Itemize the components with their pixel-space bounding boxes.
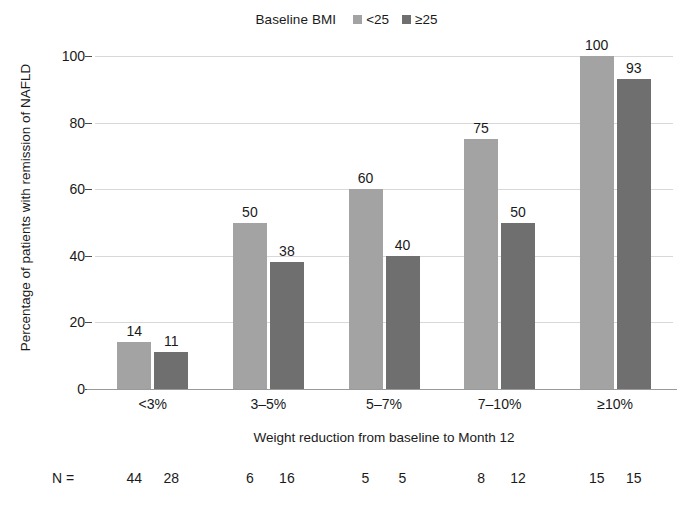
y-axis-tick-label: 40: [45, 248, 85, 264]
x-axis-title: Weight reduction from baseline to Month …: [95, 430, 673, 445]
bar-value-label: 60: [358, 170, 374, 186]
x-axis-tick-label: 3–5%: [250, 396, 286, 412]
bar: [154, 352, 188, 389]
legend-title: Baseline BMI: [255, 12, 336, 27]
y-axis-tick-label: 80: [45, 115, 85, 131]
sample-size-label: N =: [52, 470, 74, 486]
bar: [464, 139, 498, 389]
legend-swatch-lt25: [353, 15, 362, 24]
x-axis-tick-label: 7–10%: [478, 396, 522, 412]
sample-size-value: 16: [279, 470, 295, 486]
sample-size-value: 5: [362, 470, 370, 486]
bar: [386, 256, 420, 389]
sample-size-row: N = 4428616558121515: [0, 470, 693, 494]
bar-value-label: 100: [585, 37, 608, 53]
y-axis-tick-mark: [85, 189, 92, 190]
sample-size-value: 5: [399, 470, 407, 486]
y-axis-tick-mark: [85, 256, 92, 257]
bar-value-label: 50: [510, 204, 526, 220]
y-axis-tick-label: 20: [45, 314, 85, 330]
x-axis-tick-label: 5–7%: [366, 396, 402, 412]
legend-label-lt25: <25: [366, 12, 389, 27]
bar-value-label: 11: [164, 333, 179, 349]
bar: [349, 189, 383, 389]
chart-legend: Baseline BMI <25 ≥25: [0, 12, 693, 27]
bar-value-label: 38: [279, 243, 295, 259]
y-axis-tick-label: 100: [45, 48, 85, 64]
bar: [580, 56, 614, 389]
sample-size-value: 44: [127, 470, 143, 486]
y-axis-tick-label: 60: [45, 181, 85, 197]
bar: [501, 223, 535, 390]
bar: [117, 342, 151, 389]
y-axis-tick-label: 0: [45, 381, 85, 397]
bar-value-label: 50: [242, 204, 258, 220]
y-axis-tick-labels: 020406080100: [37, 56, 85, 389]
bar-value-label: 14: [127, 323, 143, 339]
legend-label-gte25: ≥25: [415, 12, 437, 27]
x-axis-tick-label: <3%: [139, 396, 167, 412]
bar: [270, 262, 304, 389]
x-axis-line: [87, 389, 677, 390]
sample-size-value: 6: [246, 470, 254, 486]
sample-size-value: 28: [164, 470, 180, 486]
sample-size-value: 15: [626, 470, 642, 486]
sample-size-value: 15: [589, 470, 605, 486]
legend-entry-lt25: <25: [353, 12, 389, 27]
y-axis-tick-mark: [85, 123, 92, 124]
y-axis-tick-mark: [85, 56, 92, 57]
y-axis-tick-mark: [85, 322, 92, 323]
bar-value-label: 75: [473, 120, 489, 136]
sample-size-value: 12: [510, 470, 526, 486]
legend-swatch-gte25: [402, 15, 411, 24]
y-axis-title: Percentage of patients with remission of…: [18, 33, 33, 383]
legend-entry-gte25: ≥25: [402, 12, 437, 27]
x-axis-tick-label: ≥10%: [597, 396, 633, 412]
sample-size-value: 8: [477, 470, 485, 486]
bar: [617, 79, 651, 389]
plot-area: 141150386040755010093: [95, 56, 673, 389]
x-axis-tick-labels: <3%3–5%5–7%7–10%≥10%: [95, 396, 673, 418]
bar-value-label: 40: [395, 237, 411, 253]
bar: [233, 223, 267, 390]
bar-value-label: 93: [626, 60, 642, 76]
